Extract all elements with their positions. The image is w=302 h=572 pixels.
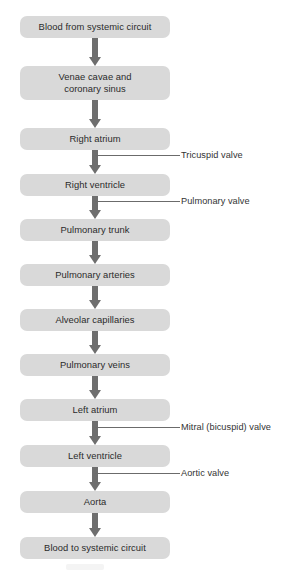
flow-arrow-down-icon [89,241,101,264]
flow-node-pulmonary-trunk: Pulmonary trunk [20,219,170,241]
arrow-shaft [92,421,98,436]
flow-arrow-down-icon [89,38,101,66]
callout-leader-line-tricuspid-valve [95,155,180,156]
flow-node-blood-from-systemic-circuit: Blood from systemic circuit [20,16,170,38]
flow-node-left-atrium: Left atrium [20,399,170,421]
flow-node-blood-to-systemic-circuit: Blood to systemic circuit [20,537,170,559]
flow-node-alveolar-capillaries: Alveolar capillaries [20,309,170,331]
bottom-artifact [66,564,104,570]
arrow-head [89,482,101,491]
flow-arrow-down-icon [89,513,101,537]
arrow-shaft [92,376,98,390]
flow-node-label: Pulmonary trunk [20,224,170,236]
flow-node-label: Pulmonary arteries [20,269,170,281]
arrow-shaft [92,467,98,482]
callout-label-aortic-valve: Aortic valve [181,468,229,479]
flow-node-label: Pulmonary veins [20,359,170,371]
flow-node-label: Right ventricle [20,179,170,191]
flow-node-left-ventricle: Left ventricle [20,445,170,467]
arrow-head [89,119,101,128]
callout-label-mitral-bicuspid-valve: Mitral (bicuspid) valve [181,422,271,433]
callout-leader-line-aortic-valve [95,473,180,474]
flow-arrow-down-icon [89,196,101,219]
flow-arrow-down-icon [89,467,101,491]
callout-label-pulmonary-valve: Pulmonary valve [181,196,250,207]
flow-node-label: Aorta [20,496,170,508]
callout-leader-line-mitral-bicuspid-valve [95,427,180,428]
arrow-shaft [92,286,98,300]
flow-node-venae-cavae-and-coronary-sinus: Venae cavae and coronary sinus [20,66,170,100]
flow-node-pulmonary-veins: Pulmonary veins [20,354,170,376]
flow-arrow-down-icon [89,376,101,399]
flow-node-label: Left ventricle [20,450,170,462]
flow-node-label: Blood to systemic circuit [20,542,170,554]
arrow-head [89,528,101,537]
arrow-head [89,165,101,174]
flow-arrow-down-icon [89,286,101,309]
flow-node-right-ventricle: Right ventricle [20,174,170,196]
flow-node-label: Left atrium [20,404,170,416]
arrow-shaft [92,513,98,528]
arrow-shaft [92,38,98,57]
flow-arrow-down-icon [89,150,101,174]
flow-node-right-atrium: Right atrium [20,128,170,150]
flow-arrow-down-icon [89,421,101,445]
arrow-shaft [92,100,98,119]
arrow-head [89,210,101,219]
arrow-shaft [92,241,98,255]
flow-node-label: Blood from systemic circuit [20,21,170,33]
flow-node-label: Venae cavae and coronary sinus [20,71,170,94]
arrow-head [89,345,101,354]
flow-node-label: Alveolar capillaries [20,314,170,326]
arrow-head [89,436,101,445]
arrow-head [89,300,101,309]
callout-leader-line-pulmonary-valve [95,201,180,202]
flow-node-pulmonary-arteries: Pulmonary arteries [20,264,170,286]
flow-node-aorta: Aorta [20,491,170,513]
flow-node-label: Right atrium [20,133,170,145]
callout-label-tricuspid-valve: Tricuspid valve [181,150,243,161]
flow-arrow-down-icon [89,331,101,354]
arrow-head [89,390,101,399]
arrow-shaft [92,331,98,345]
blood-flow-diagram: Blood from systemic circuitVenae cavae a… [0,0,302,572]
arrow-head [89,57,101,66]
arrow-shaft [92,196,98,210]
arrow-shaft [92,150,98,165]
arrow-head [89,255,101,264]
flow-arrow-down-icon [89,100,101,128]
